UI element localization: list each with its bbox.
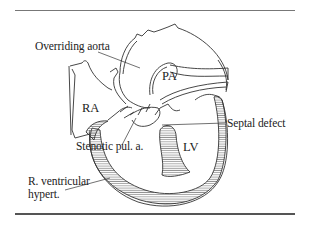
leader-septal-defect bbox=[162, 123, 225, 125]
label-overriding-aorta: Overriding aorta bbox=[35, 41, 110, 53]
label-stenotic-pul-a: Stenotic pul. a. bbox=[76, 141, 143, 153]
label-r-ventricular-line2: hypert. bbox=[28, 189, 60, 201]
label-septal-defect: Septal defect bbox=[227, 118, 285, 130]
label-pa: PA bbox=[162, 70, 177, 83]
leader-lines bbox=[65, 52, 225, 190]
leader-overriding-aorta bbox=[98, 52, 140, 68]
label-lv: LV bbox=[183, 141, 198, 154]
label-r-ventricular-line1: R. ventricular bbox=[28, 176, 90, 188]
label-ra: RA bbox=[82, 102, 99, 115]
